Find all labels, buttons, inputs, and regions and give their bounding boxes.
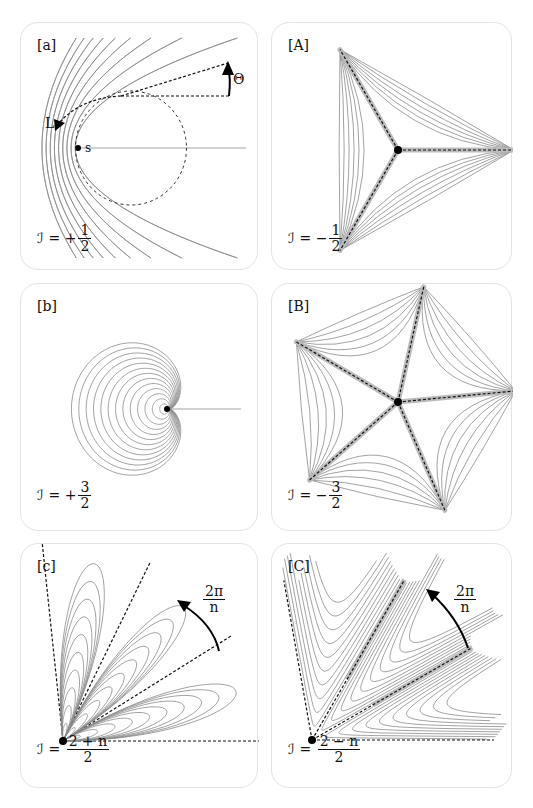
numerator: 2π — [203, 584, 225, 600]
flow-line — [422, 287, 513, 391]
equals: = — [48, 230, 60, 246]
panel-C-formula: ℐ = 2 − n2 — [288, 734, 360, 764]
flow-line — [296, 287, 423, 345]
theta-label: Θ — [233, 71, 244, 87]
flow-line — [340, 150, 513, 251]
flow-line — [296, 342, 311, 480]
panel-c-formula: ℐ = 2 + n2 — [37, 734, 109, 764]
flow-line — [63, 673, 124, 741]
rotated-line — [121, 63, 228, 96]
flow-line — [424, 287, 513, 391]
arrow-icon — [54, 119, 65, 131]
flow-line — [340, 150, 513, 251]
flow-line — [340, 50, 513, 151]
fraction: 2 + n2 — [67, 734, 110, 764]
s-label: s — [85, 141, 91, 155]
sign: + — [65, 230, 77, 246]
equals: = — [48, 741, 60, 757]
flow-line — [296, 342, 309, 480]
panel-A-formula: ℐ = − 12 — [288, 223, 342, 253]
panel-a-tag: [a] — [37, 37, 56, 53]
numerator: 1 — [78, 223, 91, 239]
flow-line — [445, 391, 513, 510]
denominator: 2 — [78, 239, 91, 254]
denominator: 2 — [332, 750, 345, 765]
flow-line — [340, 50, 364, 251]
panel-c-tag: [c] — [37, 558, 56, 574]
flow-line — [63, 646, 149, 741]
fraction: 2πn — [454, 584, 476, 614]
panel-b: [b] ℐ = + 32 — [20, 283, 258, 531]
flow-line — [424, 287, 513, 391]
numerator: 3 — [78, 480, 91, 496]
flow-line — [445, 391, 513, 510]
denominator: 2 — [78, 496, 91, 511]
flow-line — [400, 558, 494, 652]
panel-a-formula: ℐ = + 12 — [37, 223, 91, 253]
flow-line — [424, 287, 513, 391]
singular-point — [394, 146, 402, 154]
flow-line — [424, 287, 513, 391]
flow-line — [63, 633, 161, 741]
numerator: 2π — [454, 584, 476, 600]
equals: = — [48, 487, 60, 503]
flow-line — [340, 150, 513, 251]
fraction: 32 — [329, 480, 342, 510]
flow-line — [340, 50, 513, 151]
flow-line — [340, 150, 513, 251]
flow-line — [340, 50, 513, 151]
numerator: 2 − n — [318, 734, 361, 750]
flow-line — [424, 287, 513, 391]
flow-line — [316, 561, 377, 603]
flow-line — [390, 557, 495, 662]
L-label: L — [45, 115, 54, 131]
index-symbol: ℐ — [37, 230, 44, 246]
flow-line — [437, 391, 513, 510]
numerator: 1 — [329, 223, 342, 239]
flow-line — [340, 50, 513, 151]
denominator: n — [208, 600, 221, 615]
flow-line — [445, 391, 513, 510]
flow-line — [63, 606, 186, 741]
panel-A-tag: [A] — [288, 37, 309, 53]
flow-line — [339, 50, 340, 251]
numerator: 2 + n — [67, 734, 110, 750]
index-symbol: ℐ — [288, 230, 295, 246]
flow-line — [296, 287, 423, 342]
panel-A: [A] ℐ = − 12 — [271, 22, 512, 270]
singular-point — [164, 406, 170, 412]
denominator: 2 — [81, 750, 94, 765]
sign: − — [316, 487, 328, 503]
panel-B-formula: ℐ = − 32 — [288, 480, 342, 510]
equals: = — [299, 230, 311, 246]
panel-c: [c] 2πn ℐ = 2 + n2 — [20, 543, 258, 788]
fraction: 12 — [78, 223, 91, 253]
fraction: 32 — [78, 480, 91, 510]
index-symbol: ℐ — [37, 741, 44, 757]
index-symbol: ℐ — [288, 487, 295, 503]
panel-C-tag: [C] — [288, 558, 310, 574]
flow-line — [445, 391, 513, 510]
flow-line — [340, 50, 513, 151]
fraction: 2 − n2 — [318, 734, 361, 764]
panel-C: [C] 2πn ℐ = 2 − n2 — [271, 543, 512, 788]
flow-line — [340, 50, 513, 151]
flow-line — [296, 287, 423, 356]
sector-boundary — [63, 635, 233, 741]
flow-line — [340, 150, 513, 251]
angle-label: 2πn — [452, 584, 476, 614]
flow-line — [296, 287, 423, 342]
numerator: 3 — [329, 480, 342, 496]
flow-line — [301, 565, 392, 657]
denominator: n — [459, 600, 472, 615]
denominator: 2 — [329, 239, 342, 254]
sign: − — [316, 230, 328, 246]
panel-a: [a] Θ L s ℐ = + 12 — [20, 22, 258, 270]
singular-point — [394, 398, 402, 406]
flow-line — [296, 287, 423, 350]
flow-line — [340, 50, 344, 251]
panel-B-tag: [B] — [288, 298, 309, 314]
panel-B: [B] ℐ = − 32 — [271, 283, 512, 531]
panel-b-tag: [b] — [37, 298, 57, 314]
flow-line — [296, 342, 326, 480]
